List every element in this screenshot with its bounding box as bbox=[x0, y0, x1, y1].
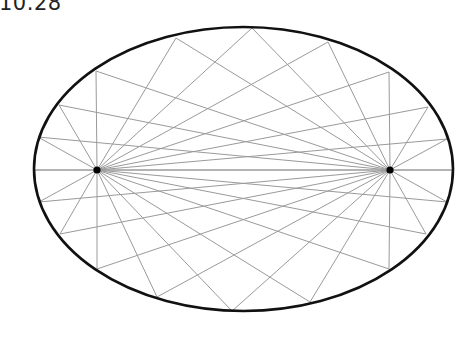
ray-line bbox=[97, 139, 447, 170]
ray-line bbox=[97, 107, 428, 170]
ray-line bbox=[389, 170, 390, 269]
ray-line bbox=[97, 170, 232, 311]
ray-line bbox=[96, 71, 97, 170]
ray-line bbox=[39, 170, 390, 202]
ray-line bbox=[97, 28, 252, 170]
ray-line bbox=[60, 170, 390, 234]
ellipse-foci-diagram bbox=[0, 0, 474, 338]
ray-line bbox=[157, 170, 390, 297]
ray-line bbox=[38, 137, 390, 170]
right-focus-dot bbox=[386, 166, 393, 173]
ray-line bbox=[97, 170, 310, 302]
ray-line bbox=[97, 170, 426, 234]
ray-line bbox=[389, 72, 390, 170]
ray-line bbox=[97, 170, 447, 202]
ray-line bbox=[97, 38, 176, 170]
ray-line bbox=[60, 170, 97, 234]
ray-line bbox=[232, 170, 390, 311]
ray-line bbox=[390, 107, 428, 170]
left-focus-dot bbox=[93, 166, 100, 173]
ray-line bbox=[252, 28, 390, 170]
ray-line bbox=[310, 170, 390, 302]
ray-line bbox=[59, 105, 97, 170]
